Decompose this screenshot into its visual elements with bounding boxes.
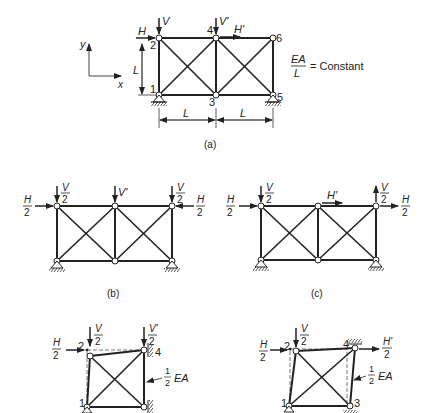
- load-label-v: V: [162, 15, 171, 27]
- load-label: 2: [266, 194, 272, 205]
- pin-support-icon: [49, 261, 65, 272]
- load-label: V: [62, 182, 70, 193]
- node-label: 6: [276, 32, 282, 44]
- load-label: V: [301, 323, 309, 334]
- load-label: H: [227, 194, 235, 205]
- caption-b: (b): [107, 288, 119, 299]
- node-label: 4: [207, 24, 213, 36]
- load-label: 2: [53, 350, 59, 361]
- member-label: 2: [165, 378, 170, 388]
- node-label: 2: [150, 39, 156, 51]
- node-label: 3: [209, 96, 215, 108]
- truss-a-members: [159, 38, 273, 95]
- stiffness-text: = Constant: [310, 60, 364, 72]
- load-label: H: [24, 194, 32, 205]
- pin-support-icon: [151, 95, 167, 106]
- load-label: 2: [227, 207, 233, 218]
- member-label: EA: [378, 370, 393, 382]
- truss-diagram: y x: [0, 0, 431, 413]
- member-label: EA: [174, 372, 189, 384]
- load-label: V: [177, 182, 185, 193]
- load-label: 2: [384, 349, 390, 360]
- figure-c: H 2 V 2 H' V 2 H 2 (c): [226, 182, 410, 299]
- dimension-label: L: [183, 107, 189, 119]
- node-label: 2: [284, 340, 290, 352]
- load-label: V': [149, 323, 159, 334]
- node-label: 1: [150, 83, 156, 95]
- node-label: 4: [155, 346, 161, 358]
- load-label: 2: [62, 194, 68, 205]
- node-label: 5: [277, 91, 283, 103]
- load-label: H: [402, 194, 410, 205]
- figure-d: H 2 V 2 V' 2 2 4 1 1 2 EA: [52, 323, 189, 413]
- member-label: 1: [165, 366, 170, 376]
- pin-support-icon: [164, 261, 180, 272]
- caption-a: (a): [204, 139, 216, 150]
- pin-support-icon: [368, 260, 384, 271]
- load-label: 2: [177, 194, 183, 205]
- load-label: V: [381, 182, 389, 193]
- load-label: H': [327, 189, 338, 201]
- node-label: 3: [354, 397, 360, 409]
- axis-x-label: x: [117, 79, 124, 90]
- axes-icon: [89, 44, 121, 76]
- load-label: V: [95, 323, 103, 334]
- load-label: 2: [402, 207, 408, 218]
- node-label: 4: [343, 338, 349, 350]
- load-label-h-prime: H': [234, 23, 245, 35]
- load-label: 2: [95, 336, 101, 347]
- load-label: 2: [197, 207, 203, 218]
- load-label-v-prime: V': [219, 15, 229, 27]
- stiffness-numerator: EA: [291, 53, 306, 65]
- figure-a: y x: [79, 15, 364, 150]
- load-label: 2: [301, 336, 307, 347]
- dimension-label: L: [133, 64, 139, 76]
- node-label: 1: [79, 397, 85, 409]
- member-label: 1: [369, 364, 374, 374]
- member-label: 2: [369, 376, 374, 386]
- load-label: 2: [260, 352, 266, 363]
- dimension-label: L: [240, 107, 246, 119]
- load-label: 2: [381, 194, 387, 205]
- load-label: 2: [24, 207, 30, 218]
- caption-c: (c): [311, 288, 323, 299]
- figure-b: H 2 V 2 V' V 2 H 2 (b): [23, 182, 205, 299]
- load-label: V': [118, 186, 128, 198]
- load-label: H: [260, 339, 268, 350]
- axis-y-label: y: [79, 38, 87, 50]
- load-label-h: H: [138, 25, 146, 37]
- pin-support-icon: [253, 260, 269, 271]
- stiffness-denominator: L: [294, 67, 300, 79]
- node-label: 2: [78, 340, 84, 352]
- load-label: H': [383, 336, 393, 347]
- roller-support-icon: [148, 343, 153, 413]
- load-label: H: [197, 194, 205, 205]
- load-label: V: [266, 182, 274, 193]
- node-label: 1: [281, 397, 287, 409]
- figure-e: H 2 V 2 H' 2 2 4 1 3 1 2 EA: [259, 323, 393, 413]
- load-label: H: [53, 337, 61, 348]
